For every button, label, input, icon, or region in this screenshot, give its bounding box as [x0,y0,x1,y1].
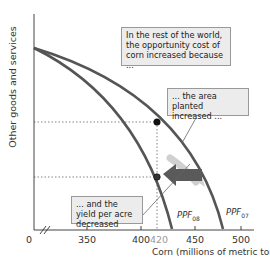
ppf08-label-main: PPF [177,210,192,220]
ppf08-label-sub: 08 [192,215,200,222]
ppf07-label-main: PPF [226,207,241,217]
point-ppf07 [154,119,161,126]
callout-opportunity-cost: In the rest of the world, the opportunit… [121,27,231,66]
ppf07-label: PPF07 [226,207,249,219]
y-axis-label: Other goods and services [7,17,21,157]
ppf07-label-sub: 07 [241,212,249,219]
tick-label-0: 0 [26,234,32,245]
x-axis-label: Corn (millions of metric tons) [152,247,270,257]
ppf08-label: PPF08 [177,210,200,222]
tick-label-450: 450 [186,234,204,245]
area-leader-line [182,118,196,143]
tick-label-420: 420 [150,234,168,245]
tick-label-400: 400 [132,234,150,245]
callout-yield-decreased: ... and the yield per acre decreased [71,196,143,224]
tick-label-350: 350 [78,234,96,245]
point-ppf08 [154,174,160,180]
tick-label-500: 500 [232,234,250,245]
callout-area-planted: ... the area planted increased ... [167,88,249,116]
